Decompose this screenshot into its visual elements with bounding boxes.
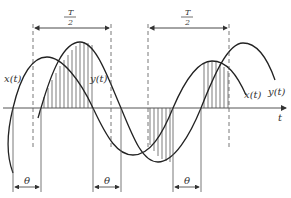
svg-text:T: T	[185, 8, 191, 17]
label-y-right: y(t)	[267, 86, 286, 97]
theta-label-3: θ	[184, 175, 190, 186]
label-x-right: x(t)	[244, 89, 262, 100]
curve-y	[38, 42, 275, 162]
half-period-label-2: T 2	[181, 8, 193, 27]
svg-text:2: 2	[184, 18, 190, 27]
t-axis-label: t	[278, 112, 283, 123]
curve-x	[8, 57, 246, 173]
theta-label-1: θ	[24, 175, 30, 186]
svg-text:T: T	[68, 8, 74, 17]
theta-label-2: θ	[104, 175, 110, 186]
diagram-container: t x(t) y(t) y(t) x(t) T 2 T 2 θ θ θ	[0, 0, 291, 198]
label-x-left: x(t)	[4, 73, 22, 84]
half-period-label-1: T 2	[64, 8, 76, 27]
label-y-left: y(t)	[89, 73, 108, 84]
svg-text:2: 2	[67, 18, 73, 27]
hatch-region-positive-2	[204, 61, 228, 108]
cross-correlation-diagram: t x(t) y(t) y(t) x(t) T 2 T 2 θ θ θ	[0, 0, 291, 198]
hatch-region-positive	[44, 42, 92, 108]
